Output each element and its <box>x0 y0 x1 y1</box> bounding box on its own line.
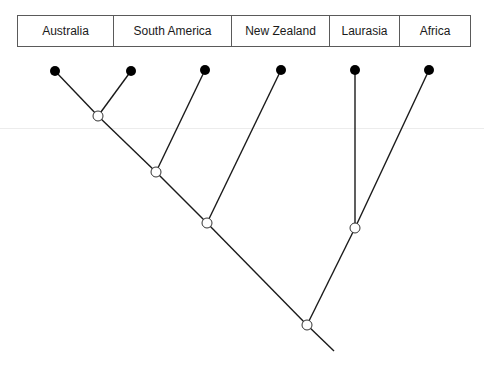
cladogram-tree <box>0 0 484 369</box>
branch-new-zealand <box>156 70 205 172</box>
internal-node-icon <box>93 111 103 121</box>
root-node-icon <box>302 320 312 330</box>
branch-n2-n3 <box>156 172 207 223</box>
branches <box>55 70 429 351</box>
branch-south-america <box>98 71 131 116</box>
internal-nodes <box>93 111 360 330</box>
branch-n4-root <box>307 228 355 325</box>
root-stem <box>307 325 334 351</box>
leaf-node-icon <box>276 65 286 75</box>
internal-node-icon <box>151 167 161 177</box>
leaf-nodes <box>50 65 434 76</box>
branch-australia <box>55 71 98 116</box>
internal-node-icon <box>202 218 212 228</box>
branch-leaf4 <box>207 70 281 223</box>
internal-node-icon <box>350 223 360 233</box>
branch-africa <box>355 70 429 228</box>
branch-n1-n2 <box>98 116 156 172</box>
leaf-node-icon <box>350 65 360 75</box>
leaf-node-icon <box>50 66 60 76</box>
leaf-node-icon <box>424 65 434 75</box>
branch-n3-root <box>207 223 307 325</box>
leaf-node-icon <box>126 66 136 76</box>
leaf-node-icon <box>200 65 210 75</box>
